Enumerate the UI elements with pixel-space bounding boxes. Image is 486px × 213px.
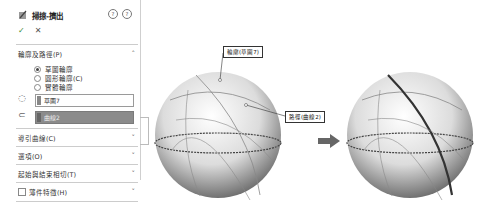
- sphere-before: [155, 53, 285, 200]
- callout-path: 路徑(曲線2): [285, 111, 325, 123]
- right-arrow-icon: [318, 134, 340, 148]
- callout-profile: 輪廓(草圖7): [223, 46, 263, 58]
- sphere-after: [347, 72, 473, 200]
- graphics-area: [0, 0, 486, 213]
